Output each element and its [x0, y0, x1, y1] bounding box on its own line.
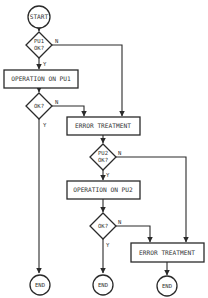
end-node-1: END — [30, 275, 50, 295]
label-op-pu2-yes: Y — [106, 242, 110, 248]
start-label: START — [30, 13, 49, 20]
end-3-label: END — [162, 283, 173, 289]
flowchart: N Y N Y N Y N Y START PU1 OK? OPERATION … — [0, 0, 208, 298]
operation-pu2-check-decision: OK? — [90, 213, 116, 239]
label-op-pu1-yes: Y — [43, 122, 47, 128]
start-node: START — [28, 6, 50, 28]
pu1-check-decision: PU1 OK? — [26, 32, 52, 58]
label-op-pu1-no: N — [55, 99, 58, 105]
pu2-check-decision: PU2 OK? — [90, 144, 116, 170]
operation-pu2-box: OPERATION ON PU2 — [67, 181, 140, 199]
pu1-check-line1: PU1 — [34, 38, 44, 44]
label-pu2-no: N — [118, 150, 121, 156]
pu2-check-line1: PU2 — [98, 150, 108, 156]
label-pu1-no: N — [55, 38, 58, 44]
error-treatment-1-label: ERROR TREATMENT — [75, 122, 131, 129]
operation-pu1-box: OPERATION ON PU1 — [4, 70, 78, 88]
operation-pu1-check-decision: OK? — [26, 93, 52, 119]
operation-pu1-check-label: OK? — [34, 103, 44, 109]
end-node-3: END — [157, 276, 177, 296]
connectors — [39, 28, 186, 275]
operation-pu1-label: OPERATION ON PU1 — [11, 75, 71, 82]
edge-op-pu1-no — [52, 106, 84, 116]
end-1-label: END — [35, 282, 46, 288]
label-pu2-yes: Y — [106, 172, 110, 178]
end-node-2: END — [93, 275, 113, 295]
error-treatment-1-box: ERROR TREATMENT — [67, 117, 140, 135]
end-2-label: END — [98, 282, 109, 288]
pu1-check-line2: OK? — [34, 45, 44, 51]
pu2-check-line2: OK? — [98, 157, 108, 163]
error-treatment-2-label: ERROR TREATMENT — [139, 249, 195, 256]
label-op-pu2-no: N — [118, 219, 121, 225]
label-pu1-yes: Y — [43, 61, 47, 67]
operation-pu2-label: OPERATION ON PU2 — [73, 186, 133, 193]
error-treatment-2-box: ERROR TREATMENT — [131, 243, 204, 262]
operation-pu2-check-label: OK? — [98, 223, 108, 229]
edge-op-pu2-no — [116, 226, 150, 242]
